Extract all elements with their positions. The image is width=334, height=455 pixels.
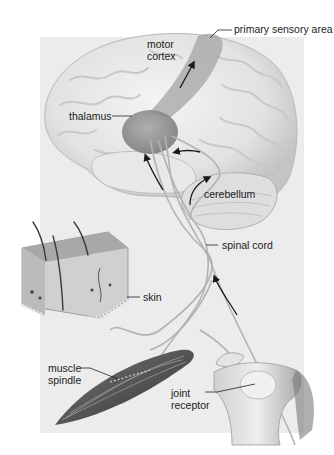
label-motor-cortex-line1: motor [147, 38, 174, 50]
cerebellum [182, 173, 277, 230]
diagram-art [0, 0, 334, 455]
label-primary-sensory-area: primary sensory area [234, 23, 333, 35]
label-muscle-spindle-line1: muscle [48, 362, 81, 374]
label-thalamus: thalamus [69, 110, 112, 122]
label-joint-receptor-line2: receptor [171, 399, 210, 411]
label-skin: skin [143, 291, 162, 303]
label-cerebellum: cerebellum [204, 188, 255, 200]
shoulder-joint [214, 353, 314, 445]
label-joint-receptor-line1: joint [171, 387, 190, 399]
label-spinal-cord: spinal cord [222, 239, 273, 251]
skin-block [22, 222, 128, 318]
label-muscle-spindle-line2: spindle [48, 374, 81, 386]
thalamus [122, 110, 178, 154]
label-motor-cortex-line2: cortex [147, 50, 176, 62]
